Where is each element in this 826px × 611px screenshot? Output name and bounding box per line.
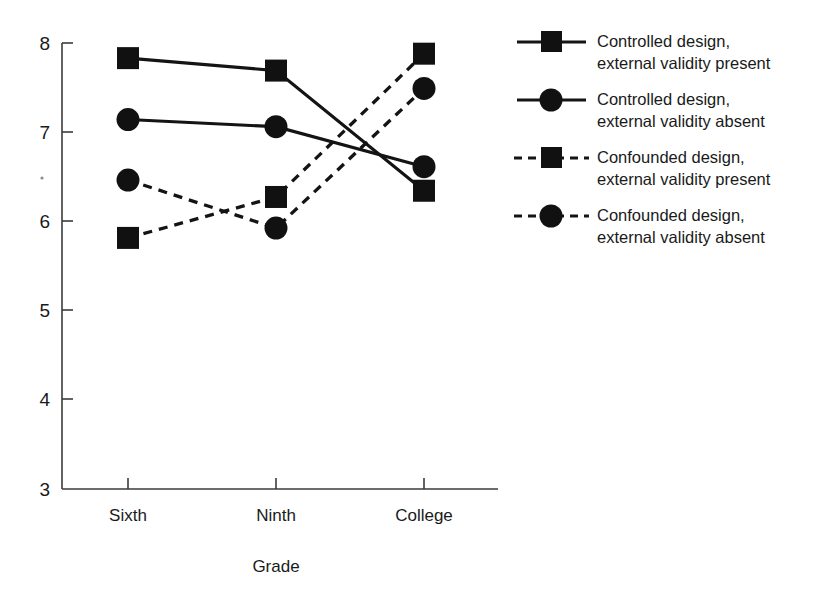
- legend-label-line1: Controlled design,: [597, 90, 730, 108]
- data-point-square[interactable]: [265, 60, 287, 82]
- x-tick-label-sixth: Sixth: [109, 506, 147, 525]
- x-tick-label-ninth: Ninth: [256, 506, 296, 525]
- x-axis-tick-labels: Sixth Ninth College: [109, 506, 453, 525]
- y-axis-ticks: [62, 43, 73, 399]
- series-layer: [117, 43, 436, 249]
- legend-circle-marker-icon: [540, 89, 563, 112]
- legend-entry-controlled-absent[interactable]: Controlled design, external validity abs…: [517, 89, 765, 131]
- data-point-circle[interactable]: [117, 108, 140, 131]
- x-tick-label-college: College: [395, 506, 453, 525]
- legend-entry-controlled-present[interactable]: Controlled design, external validity pre…: [517, 31, 771, 72]
- y-tick-label: 5: [39, 300, 50, 321]
- legend-label-line2: external validity present: [597, 54, 771, 72]
- legend-entry-confounded-absent[interactable]: Confounded design, external validity abs…: [514, 205, 765, 247]
- y-tick-label: 7: [39, 122, 50, 143]
- data-point-circle[interactable]: [265, 217, 288, 240]
- data-point-circle[interactable]: [413, 77, 436, 100]
- y-tick-label: 6: [39, 211, 50, 232]
- figure-container: 8 7 6 5 4 3 Sixth Ninth College Grade: [0, 0, 826, 611]
- legend-label-line2: external validity absent: [597, 228, 765, 246]
- data-point-square[interactable]: [413, 43, 435, 65]
- legend-circle-marker-icon: [540, 205, 563, 228]
- scan-speck: [40, 176, 43, 179]
- data-point-square[interactable]: [265, 186, 287, 208]
- data-point-circle[interactable]: [117, 169, 140, 192]
- x-axis-title: Grade: [252, 557, 299, 576]
- legend-square-marker-icon: [541, 147, 562, 168]
- legend-label-line2: external validity absent: [597, 112, 765, 130]
- x-axis-ticks: [128, 478, 424, 489]
- legend-label-line1: Confounded design,: [597, 206, 745, 224]
- data-point-square[interactable]: [117, 227, 139, 249]
- legend-label-line1: Controlled design,: [597, 32, 730, 50]
- y-tick-label: 4: [39, 389, 50, 410]
- y-tick-label: 3: [39, 479, 50, 500]
- chart-legend: Controlled design, external validity pre…: [514, 31, 771, 246]
- legend-label-line2: external validity present: [597, 170, 771, 188]
- legend-label-line1: Confounded design,: [597, 148, 745, 166]
- series-1: [117, 108, 436, 178]
- data-point-square[interactable]: [413, 180, 435, 202]
- line-chart: 8 7 6 5 4 3 Sixth Ninth College Grade: [0, 0, 826, 611]
- y-axis-tick-labels: 8 7 6 5 4 3: [39, 33, 50, 500]
- legend-entry-confounded-present[interactable]: Confounded design, external validity pre…: [514, 147, 771, 188]
- legend-square-marker-icon: [541, 31, 562, 52]
- data-point-square[interactable]: [117, 47, 139, 69]
- data-point-circle[interactable]: [265, 115, 288, 138]
- y-tick-label: 8: [39, 33, 50, 54]
- data-point-circle[interactable]: [413, 155, 436, 178]
